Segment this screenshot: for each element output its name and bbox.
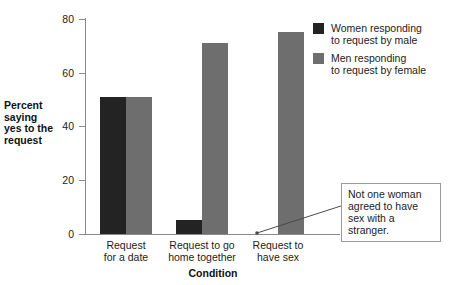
- legend-label-women-line-1: Women responding: [331, 22, 422, 34]
- legend-label-men-line-1: Men responding: [331, 52, 426, 64]
- annotation-line-2: agreed to have: [348, 200, 435, 212]
- y-tick-mark-40: [79, 126, 85, 127]
- y-axis-title-line-3: yes to the: [4, 123, 66, 135]
- x-category-label-line-2: have sex: [240, 251, 316, 263]
- x-axis-title: Condition: [85, 267, 341, 279]
- x-category-label-line-2: home together: [158, 251, 246, 263]
- y-tick-label-80: 80: [34, 14, 74, 24]
- bar-men-request-to-have-sex: [278, 32, 304, 234]
- annotation-callout: Not one woman agreed to have sex with a …: [341, 183, 441, 242]
- x-axis-line: [85, 234, 340, 235]
- y-axis-title-line-4: request: [4, 135, 66, 147]
- x-category-label-line-1: Request to go: [158, 239, 246, 251]
- legend-label-women-line-2: to request by male: [331, 34, 422, 46]
- bar-men-request-to-go-home-together: [202, 43, 228, 234]
- y-tick-label-0: 0: [34, 229, 74, 239]
- legend-swatch-women-icon: [313, 23, 324, 34]
- legend-label-women: Women responding to request by male: [331, 22, 422, 46]
- y-tick-mark-60: [79, 73, 85, 74]
- y-axis-title-line-1: Percent: [4, 100, 66, 112]
- x-category-label-line-1: Request: [86, 239, 166, 251]
- x-category-label-request-to-have-sex: Request to have sex: [240, 239, 316, 263]
- y-tick-mark-20: [79, 180, 85, 181]
- annotation-line-3: sex with a stranger.: [348, 212, 435, 236]
- y-axis-title: Percent saying yes to the request: [4, 100, 66, 146]
- y-tick-mark-80: [79, 19, 85, 20]
- x-category-label-line-1: Request to: [240, 239, 316, 251]
- y-axis-line: [85, 18, 86, 235]
- bar-chart-figure: 0 20 40 60 80 Percent saying yes to the …: [0, 0, 449, 285]
- x-category-label-request-to-go-home-together: Request to go home together: [158, 239, 246, 263]
- legend-swatch-men-icon: [313, 53, 324, 64]
- legend: Women responding to request by male Men …: [313, 22, 449, 82]
- annotation-line-1: Not one woman: [348, 188, 435, 200]
- bar-women-request-to-go-home-together: [176, 220, 202, 234]
- legend-item-men: Men responding to request by female: [313, 52, 449, 76]
- legend-label-men: Men responding to request by female: [331, 52, 426, 76]
- bar-women-request-for-a-date: [100, 97, 126, 234]
- x-category-label-line-2: for a date: [86, 251, 166, 263]
- x-category-label-request-for-a-date: Request for a date: [86, 239, 166, 263]
- bar-men-request-for-a-date: [126, 97, 152, 234]
- legend-label-men-line-2: to request by female: [331, 64, 426, 76]
- legend-item-women: Women responding to request by male: [313, 22, 449, 46]
- y-tick-label-20: 20: [34, 175, 74, 185]
- y-tick-label-60: 60: [34, 68, 74, 78]
- y-tick-mark-0: [79, 234, 85, 235]
